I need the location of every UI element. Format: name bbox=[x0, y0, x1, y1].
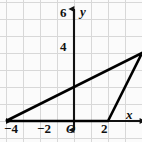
y-tick-label-6: 6 bbox=[60, 6, 67, 19]
x-axis-label: x bbox=[126, 108, 133, 121]
coordinate-plane-figure: x y −4 −2 O 2 4 6 bbox=[0, 0, 142, 142]
x-tick-label-neg2: −2 bbox=[37, 122, 51, 135]
y-axis-label: y bbox=[80, 5, 86, 18]
x-tick-label-neg4: −4 bbox=[4, 122, 18, 135]
y-tick-label-4: 4 bbox=[60, 40, 67, 53]
x-tick-label-2: 2 bbox=[101, 122, 108, 135]
origin-label: O bbox=[66, 122, 75, 135]
